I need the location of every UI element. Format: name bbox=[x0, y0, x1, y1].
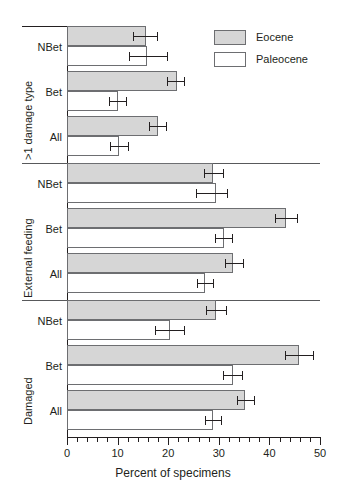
x-tick-label-0: 0 bbox=[52, 447, 82, 459]
error-bar-line bbox=[237, 400, 254, 401]
plot-area bbox=[67, 26, 320, 437]
error-bar-cap-high bbox=[313, 351, 314, 360]
error-bar-cap-high bbox=[232, 234, 233, 243]
error-bar-cap-low bbox=[275, 214, 276, 223]
x-tick-minor bbox=[300, 438, 301, 442]
x-tick-minor bbox=[178, 438, 179, 442]
legend-swatch-paleocene bbox=[214, 52, 246, 67]
error-bar-cap-low bbox=[205, 416, 206, 425]
x-tick-minor bbox=[188, 438, 189, 442]
x-tick-minor bbox=[259, 438, 260, 442]
error-bar-cap-high bbox=[213, 279, 214, 288]
x-tick-label-40: 40 bbox=[254, 447, 284, 459]
x-tick-minor bbox=[138, 438, 139, 442]
error-bar-line bbox=[155, 330, 184, 331]
error-bar-cap-high bbox=[243, 259, 244, 268]
x-tick-minor bbox=[229, 438, 230, 442]
error-bar-cap-high bbox=[184, 77, 185, 86]
x-tick-minor bbox=[148, 438, 149, 442]
x-tick-major bbox=[320, 438, 321, 445]
error-bar-cap-low bbox=[129, 52, 130, 61]
error-bar-line bbox=[275, 218, 297, 219]
bar-paleocene-external-feeding-nbet bbox=[67, 183, 216, 203]
error-bar-cap-low bbox=[109, 97, 110, 106]
x-tick-minor bbox=[87, 438, 88, 442]
error-bar-line bbox=[133, 36, 157, 37]
error-bar-cap-low bbox=[225, 259, 226, 268]
x-tick-minor bbox=[280, 438, 281, 442]
bar-eocene--1-damage-type-bet bbox=[67, 71, 177, 91]
bar-eocene--1-damage-type-all bbox=[67, 116, 158, 136]
bar-eocene-external-feeding-bet bbox=[67, 208, 286, 228]
error-bar-line bbox=[197, 283, 213, 284]
error-bar-line bbox=[285, 355, 313, 356]
error-bar-line bbox=[167, 81, 184, 82]
error-bar-cap-low bbox=[196, 189, 197, 198]
bar-paleocene-external-feeding-bet bbox=[67, 228, 224, 248]
error-bar-line bbox=[223, 375, 242, 376]
error-bar-cap-low bbox=[204, 169, 205, 178]
error-bar-cap-low bbox=[155, 326, 156, 335]
error-bar-cap-high bbox=[254, 396, 255, 405]
error-bar-line bbox=[206, 310, 226, 311]
error-bar-cap-high bbox=[184, 326, 185, 335]
legend-swatch-eocene bbox=[214, 30, 246, 45]
error-bar-cap-high bbox=[126, 97, 127, 106]
x-tick-minor bbox=[310, 438, 311, 442]
x-tick-minor bbox=[77, 438, 78, 442]
bar-eocene-damaged-all bbox=[67, 390, 245, 410]
legend-label-paleocene: Paleocene bbox=[256, 52, 308, 67]
x-tick-minor bbox=[128, 438, 129, 442]
x-axis-title: Percent of specimens bbox=[0, 466, 346, 480]
error-bar-cap-low bbox=[285, 351, 286, 360]
error-bar-cap-low bbox=[133, 32, 134, 41]
error-bar-line bbox=[149, 126, 166, 127]
x-axis-line bbox=[67, 437, 321, 438]
x-tick-major bbox=[269, 438, 270, 445]
error-bar-cap-high bbox=[227, 189, 228, 198]
error-bar-cap-low bbox=[167, 77, 168, 86]
error-bar-cap-low bbox=[223, 371, 224, 380]
error-bar-line bbox=[129, 56, 167, 57]
error-bar-cap-low bbox=[215, 234, 216, 243]
error-bar-cap-low bbox=[197, 279, 198, 288]
x-tick-major bbox=[118, 438, 119, 445]
x-tick-minor bbox=[249, 438, 250, 442]
bar-eocene-external-feeding-nbet bbox=[67, 163, 213, 183]
x-tick-label-10: 10 bbox=[103, 447, 133, 459]
x-tick-label-30: 30 bbox=[204, 447, 234, 459]
error-bar-line bbox=[215, 238, 232, 239]
error-bar-line bbox=[225, 263, 242, 264]
x-tick-minor bbox=[199, 438, 200, 442]
x-tick-label-50: 50 bbox=[305, 447, 335, 459]
error-bar-cap-low bbox=[110, 142, 111, 151]
error-bar-cap-low bbox=[206, 306, 207, 315]
error-bar-cap-high bbox=[226, 306, 227, 315]
error-bar-cap-high bbox=[166, 122, 167, 131]
x-tick-minor bbox=[239, 438, 240, 442]
bar-paleocene-damaged-all bbox=[67, 410, 213, 430]
category-label-bet: Bet bbox=[16, 360, 62, 372]
x-tick-label-20: 20 bbox=[153, 447, 183, 459]
error-bar-cap-low bbox=[237, 396, 238, 405]
x-tick-minor bbox=[97, 438, 98, 442]
error-bar-line bbox=[110, 146, 128, 147]
error-bar-cap-high bbox=[221, 416, 222, 425]
x-tick-major bbox=[219, 438, 220, 445]
category-label-nbet: NBet bbox=[16, 315, 62, 327]
legend-label-eocene: Eocene bbox=[256, 30, 293, 45]
error-bar-line bbox=[109, 101, 126, 102]
error-bar-line bbox=[205, 420, 222, 421]
bar-paleocene-external-feeding-all bbox=[67, 273, 205, 293]
bar-eocene-damaged-bet bbox=[67, 345, 299, 365]
error-bar-cap-high bbox=[128, 142, 129, 151]
bar-paleocene-damaged-bet bbox=[67, 365, 233, 385]
group-label-1: External feeding bbox=[22, 219, 34, 299]
category-label-nbet: NBet bbox=[16, 178, 62, 190]
error-bar-line bbox=[204, 173, 223, 174]
x-tick-major bbox=[168, 438, 169, 445]
error-bar-cap-high bbox=[167, 52, 168, 61]
x-tick-minor bbox=[209, 438, 210, 442]
error-bar-line bbox=[196, 193, 227, 194]
error-bar-cap-high bbox=[157, 32, 158, 41]
